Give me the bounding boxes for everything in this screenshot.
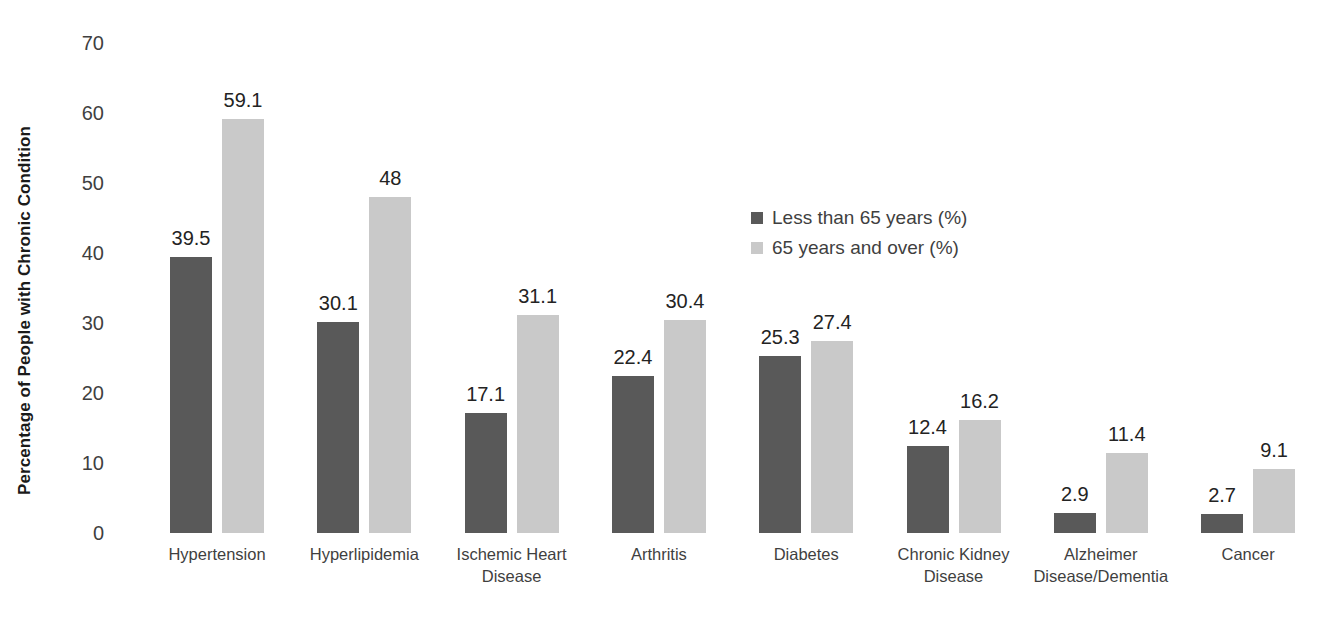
bar-item[interactable]: 11.4 <box>1106 42 1148 533</box>
bar-value-label: 12.4 <box>908 417 947 437</box>
bar-item[interactable]: 59.1 <box>222 42 264 533</box>
bar-group: 12.416.2 <box>907 42 1001 533</box>
bar-value-label: 59.1 <box>224 90 263 110</box>
bar[interactable] <box>1253 469 1295 533</box>
legend-label: Less than 65 years (%) <box>772 207 967 229</box>
bar[interactable] <box>811 341 853 533</box>
x-axis-category-label: Hyperlipidemia <box>284 543 444 565</box>
bar[interactable] <box>1201 514 1243 533</box>
bar-group: 25.327.4 <box>759 42 853 533</box>
x-axis-category-line: Chronic Kidney <box>874 543 1034 565</box>
plot-area: 39.559.1Hypertension30.148Hyperlipidemia… <box>0 0 1335 621</box>
x-axis-category-line: Arthritis <box>579 543 739 565</box>
bar[interactable] <box>664 320 706 533</box>
bar-group: 2.79.1 <box>1201 42 1295 533</box>
bar-value-label: 30.1 <box>319 293 358 313</box>
bar-value-label: 22.4 <box>613 347 652 367</box>
bar[interactable] <box>222 119 264 533</box>
bar-group: 39.559.1 <box>170 42 264 533</box>
bar-value-label: 9.1 <box>1260 440 1288 460</box>
x-axis-category-line: Disease/Dementia <box>1021 565 1181 587</box>
bar-value-label: 39.5 <box>172 228 211 248</box>
bar-value-label: 2.9 <box>1061 484 1089 504</box>
bar-item[interactable]: 27.4 <box>811 42 853 533</box>
bar-item[interactable]: 17.1 <box>465 42 507 533</box>
x-axis-category-label: Chronic KidneyDisease <box>874 543 1034 588</box>
x-axis-category-label: AlzheimerDisease/Dementia <box>1021 543 1181 588</box>
bar-item[interactable]: 31.1 <box>517 42 559 533</box>
bar[interactable] <box>759 356 801 533</box>
bar-item[interactable]: 12.4 <box>907 42 949 533</box>
x-axis-category-label: Arthritis <box>579 543 739 565</box>
bar-group: 17.131.1 <box>465 42 559 533</box>
bar-value-label: 16.2 <box>960 391 999 411</box>
x-axis-category-line: Disease <box>432 565 592 587</box>
bar-item[interactable]: 30.1 <box>317 42 359 533</box>
bar-value-label: 31.1 <box>518 286 557 306</box>
x-axis-category-line: Disease <box>874 565 1034 587</box>
bar[interactable] <box>1106 453 1148 533</box>
bar-group: 30.148 <box>317 42 411 533</box>
x-axis-category-line: Alzheimer <box>1021 543 1181 565</box>
bar[interactable] <box>170 257 212 534</box>
bar-item[interactable]: 22.4 <box>612 42 654 533</box>
bar-value-label: 25.3 <box>761 327 800 347</box>
x-axis-category-label: Ischemic HeartDisease <box>432 543 592 588</box>
bar-value-label: 30.4 <box>665 291 704 311</box>
legend-item[interactable]: 65 years and over (%) <box>751 233 967 263</box>
bar-value-label: 27.4 <box>813 312 852 332</box>
bar-item[interactable]: 30.4 <box>664 42 706 533</box>
bar[interactable] <box>1054 513 1096 533</box>
bar-chart: Percentage of People with Chronic Condit… <box>0 0 1335 621</box>
legend-swatch-icon <box>751 212 763 224</box>
x-axis-category-line: Hyperlipidemia <box>284 543 444 565</box>
bar-group: 22.430.4 <box>612 42 706 533</box>
x-axis-category-line: Cancer <box>1168 543 1328 565</box>
legend-swatch-icon <box>751 242 763 254</box>
bar-value-label: 11.4 <box>1108 424 1145 444</box>
bar-value-label: 48 <box>379 168 401 188</box>
bar[interactable] <box>317 322 359 533</box>
x-axis-category-label: Cancer <box>1168 543 1328 565</box>
bar[interactable] <box>959 420 1001 533</box>
bar-item[interactable]: 16.2 <box>959 42 1001 533</box>
bar[interactable] <box>907 446 949 533</box>
bar[interactable] <box>369 197 411 533</box>
x-axis-category-line: Hypertension <box>137 543 297 565</box>
bar-item[interactable]: 2.7 <box>1201 42 1243 533</box>
bar-item[interactable]: 39.5 <box>170 42 212 533</box>
bar-item[interactable]: 2.9 <box>1054 42 1096 533</box>
x-axis-category-line: Ischemic Heart <box>432 543 592 565</box>
bar-item[interactable]: 9.1 <box>1253 42 1295 533</box>
x-axis-category-line: Diabetes <box>726 543 886 565</box>
bar-item[interactable]: 25.3 <box>759 42 801 533</box>
bar-value-label: 17.1 <box>466 384 505 404</box>
bar-item[interactable]: 48 <box>369 42 411 533</box>
x-axis-category-label: Diabetes <box>726 543 886 565</box>
legend-item[interactable]: Less than 65 years (%) <box>751 203 967 233</box>
legend-label: 65 years and over (%) <box>772 237 959 259</box>
bar[interactable] <box>612 376 654 533</box>
bar[interactable] <box>465 413 507 533</box>
bar-value-label: 2.7 <box>1208 485 1236 505</box>
bar[interactable] <box>517 315 559 533</box>
x-axis-category-label: Hypertension <box>137 543 297 565</box>
bar-group: 2.911.4 <box>1054 42 1148 533</box>
legend: Less than 65 years (%)65 years and over … <box>751 203 967 263</box>
